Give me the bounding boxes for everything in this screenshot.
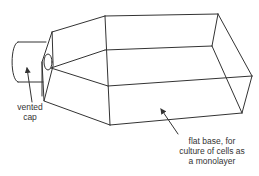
base-label-line-3: a monolayer bbox=[172, 156, 252, 166]
cap-leader-arrow bbox=[27, 68, 32, 102]
base-label-line-1: flat base, for bbox=[172, 136, 252, 146]
vented-cap-label: vented cap bbox=[10, 102, 50, 122]
cap-label-line-2: cap bbox=[10, 112, 50, 122]
flask-body bbox=[105, 14, 252, 125]
base-label-line-2: culture of cells as bbox=[172, 146, 252, 156]
cap-left-ellipse bbox=[12, 42, 18, 82]
vented-cap bbox=[12, 42, 46, 82]
flat-base bbox=[110, 113, 242, 125]
cap-label-line-1: vented bbox=[10, 102, 50, 112]
base-leader-arrow bbox=[161, 109, 178, 134]
funnel-shoulder bbox=[44, 16, 110, 125]
flat-base-label: flat base, for culture of cells as a mon… bbox=[172, 136, 252, 166]
